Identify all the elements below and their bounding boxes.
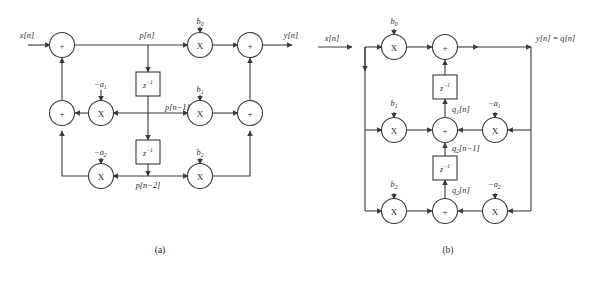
coeff-label-b1: b1 (390, 99, 397, 109)
label-a-input: x[n] (19, 31, 34, 40)
coeff-label-neg-a1: −a1 (488, 99, 501, 109)
wire-a-a2-feedback (62, 131, 89, 176)
label-a-p-n-2: p[n−2] (135, 181, 161, 190)
multiplier-glyph: X (492, 207, 499, 217)
coeff-label-b0: b0 (196, 17, 203, 27)
multiplier-glyph: X (492, 126, 499, 136)
coeff-label-neg-a2: −a2 (94, 148, 107, 158)
multiplier-glyph: X (391, 207, 398, 217)
coeff-label-neg-a1: −a1 (94, 80, 107, 90)
multiplier-glyph: X (98, 172, 105, 182)
multiplier-glyph: X (197, 41, 204, 51)
caption-a: (a) (155, 245, 166, 256)
label-b-q1-n: q1[n] (452, 105, 470, 115)
caption-b: (b) (442, 245, 453, 256)
coeff-label-b2: b2 (390, 180, 397, 190)
adder-glyph: + (247, 109, 252, 119)
adder-glyph: + (442, 207, 447, 217)
coeff-label-b2: b2 (196, 148, 203, 158)
adder-glyph: + (59, 41, 64, 51)
adder-glyph: + (247, 41, 252, 51)
coeff-label-neg-a2: −a2 (488, 180, 501, 190)
coeff-label-b0: b0 (390, 17, 397, 27)
figure-container: + + + + X X X X X z−1 z−1 x[n] p[n] y[n]… (0, 0, 597, 282)
label-a-p-n-1: p[n−1] (164, 103, 190, 112)
adder-glyph: + (59, 109, 64, 119)
label-a-output: y[n] (283, 31, 298, 40)
wire-a-b2-to-sum (212, 131, 250, 176)
diagram-b-group: + + + X X X X X z−1 z−1 x[n] y[n] = q[n]… (318, 17, 575, 256)
label-a-p-n: p[n] (139, 31, 155, 40)
multiplier-glyph: X (197, 172, 204, 182)
label-b-output: y[n] = q[n] (535, 34, 575, 43)
signal-flow-diagram-svg: + + + + X X X X X z−1 z−1 x[n] p[n] y[n]… (0, 0, 597, 282)
multiplier-glyph: X (98, 109, 105, 119)
multiplier-glyph: X (197, 109, 204, 119)
coeff-label-b1: b1 (196, 85, 203, 95)
adder-glyph: + (442, 43, 447, 53)
diagram-a-group: + + + + X X X X X z−1 z−1 x[n] p[n] y[n]… (19, 17, 298, 256)
label-b-input: x[n] (324, 34, 339, 43)
label-b-q2-n-1: q2[n−1] (452, 144, 480, 154)
adder-glyph: + (442, 126, 447, 136)
multiplier-glyph: X (391, 43, 398, 53)
multiplier-glyph: X (391, 126, 398, 136)
label-b-q2-n: q2[n] (452, 186, 470, 196)
